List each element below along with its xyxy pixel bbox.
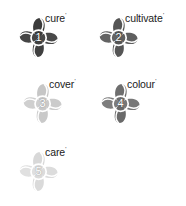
flower-cluster: 3coverʹ	[22, 78, 84, 132]
cluster-label: cultivateʹ	[125, 13, 164, 24]
figure-canvas: 1cureʹ2cultivateʹ3coverʹ4colourʹ5careʹ	[0, 0, 186, 206]
cluster-label-text: care	[45, 146, 65, 158]
cluster-number: 4	[113, 96, 128, 111]
cluster-label: colourʹ	[127, 79, 156, 90]
cluster-number: 5	[31, 164, 46, 179]
cluster-label-superscript: ʹ	[155, 78, 156, 84]
cluster-number: 2	[111, 30, 126, 45]
cluster-label-superscript: ʹ	[74, 78, 75, 84]
flower-cluster: 5careʹ	[18, 146, 80, 200]
cluster-number: 1	[31, 30, 46, 45]
cluster-label: cureʹ	[45, 13, 66, 24]
cluster-label: coverʹ	[49, 79, 75, 90]
cluster-label: careʹ	[45, 147, 66, 158]
flower-cluster: 1cureʹ	[18, 12, 80, 66]
cluster-label-text: colour	[127, 78, 155, 90]
cluster-label-text: cultivate	[125, 12, 163, 24]
cluster-label-superscript: ʹ	[163, 12, 164, 18]
cluster-label-superscript: ʹ	[65, 12, 66, 18]
cluster-label-text: cure	[45, 12, 65, 24]
cluster-label-text: cover	[49, 78, 74, 90]
cluster-number: 3	[35, 96, 50, 111]
flower-cluster: 4colourʹ	[100, 78, 162, 132]
cluster-label-superscript: ʹ	[65, 146, 66, 152]
flower-cluster: 2cultivateʹ	[98, 12, 160, 66]
